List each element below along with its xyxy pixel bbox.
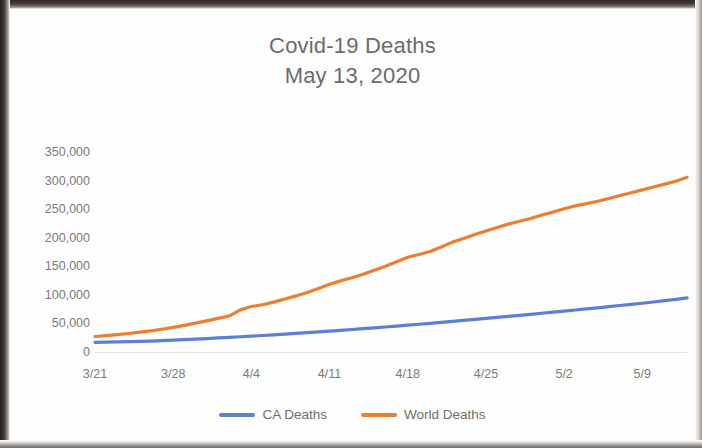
series-line bbox=[95, 298, 687, 342]
y-axis-tick-label: 0 bbox=[18, 345, 90, 359]
x-axis-tick-label: 3/28 bbox=[161, 367, 185, 381]
y-axis-tick-label: 300,000 bbox=[18, 174, 90, 188]
y-axis-tick-label: 100,000 bbox=[18, 288, 90, 302]
x-axis-tick-label: 4/25 bbox=[474, 367, 498, 381]
slide-frame-bottom-edge bbox=[0, 440, 702, 448]
chart-legend: CA DeathsWorld Deaths bbox=[10, 407, 695, 423]
plot-area bbox=[95, 143, 687, 353]
slide-frame-right-edge bbox=[695, 0, 702, 448]
y-axis-tick-label: 150,000 bbox=[18, 259, 90, 273]
x-axis-tick-label: 5/2 bbox=[555, 367, 572, 381]
chart-title: Covid-19 Deaths bbox=[10, 31, 695, 61]
chart-subtitle: May 13, 2020 bbox=[10, 61, 695, 91]
legend-swatch-icon bbox=[219, 413, 255, 417]
legend-item[interactable]: CA Deaths bbox=[219, 407, 327, 423]
legend-item[interactable]: World Deaths bbox=[361, 407, 486, 423]
legend-swatch-icon bbox=[361, 413, 397, 417]
x-axis-tick-label: 4/11 bbox=[318, 367, 341, 381]
chart-screenshot: Covid-19 Deaths May 13, 2020 350,000300,… bbox=[0, 0, 702, 448]
y-axis-tick-label: 350,000 bbox=[18, 145, 90, 159]
series-lines bbox=[95, 143, 687, 353]
legend-label: CA Deaths bbox=[262, 407, 327, 423]
y-axis-tick-label: 50,000 bbox=[18, 316, 90, 330]
slide-frame-left-edge bbox=[0, 0, 10, 448]
slide-frame-top-edge bbox=[0, 0, 702, 9]
series-line bbox=[95, 177, 687, 336]
x-axis-tick-label: 5/9 bbox=[634, 367, 651, 381]
x-axis-tick-label: 4/4 bbox=[243, 367, 260, 381]
chart-plate: Covid-19 Deaths May 13, 2020 350,000300,… bbox=[10, 9, 695, 440]
x-axis-tick-label: 4/18 bbox=[396, 367, 420, 381]
y-axis-tick-label: 250,000 bbox=[18, 202, 90, 216]
legend-label: World Deaths bbox=[404, 407, 486, 423]
y-axis-tick-label: 200,000 bbox=[18, 231, 90, 245]
x-axis-tick-label: 3/21 bbox=[83, 367, 107, 381]
y-axis-tick-labels: 350,000300,000250,000200,000150,000100,0… bbox=[10, 9, 90, 440]
